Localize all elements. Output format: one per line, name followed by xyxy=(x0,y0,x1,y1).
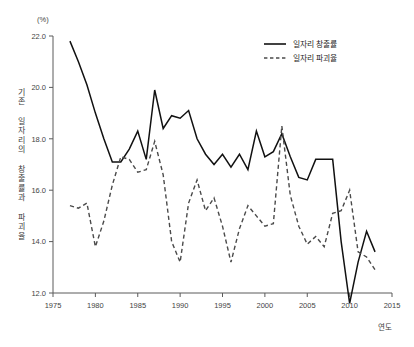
x-axis-ticks: 197519801985199019952000200520102015 xyxy=(45,293,401,310)
legend-label-2: 일자리 파괴율 xyxy=(293,54,337,63)
y-axis-unit-label: (%) xyxy=(37,15,49,24)
y-tick-label: 20.0 xyxy=(31,83,46,92)
y-axis-unit-label-group: (%) xyxy=(37,15,49,24)
y-axis-ticks: 12.014.016.018.020.022.0 xyxy=(31,32,53,298)
y-axis-title-char: 파 xyxy=(18,213,26,222)
y-axis-title-char: 률 xyxy=(18,184,25,193)
chart-container: (%) 기존일자리의창출률과파괴율 12.014.016.018.020.022… xyxy=(0,0,414,347)
x-tick-label: 1980 xyxy=(87,301,104,310)
x-tick-label: 1985 xyxy=(129,301,146,310)
y-axis-title-char: 기 xyxy=(18,88,25,97)
x-tick-label: 2015 xyxy=(384,301,401,310)
x-tick-label: 1995 xyxy=(214,301,231,310)
y-axis-title-char: 자 xyxy=(18,126,26,135)
x-tick-label: 1990 xyxy=(172,301,189,310)
job-creation-destruction-line-chart: (%) 기존일자리의창출률과파괴율 12.014.016.018.020.022… xyxy=(0,0,414,347)
y-tick-label: 14.0 xyxy=(31,237,46,246)
x-tick-label: 1975 xyxy=(45,301,62,310)
series-line-2 xyxy=(70,126,375,270)
x-axis-title: 연도 xyxy=(378,323,392,332)
legend-label-1: 일자리 창출률 xyxy=(293,39,337,49)
x-tick-label: 2000 xyxy=(257,301,274,310)
y-tick-label: 12.0 xyxy=(31,289,46,298)
y-axis-title-char: 일 xyxy=(18,117,25,126)
y-tick-label: 22.0 xyxy=(31,32,46,41)
y-axis-title-char: 율 xyxy=(18,232,25,241)
y-axis-title-char: 창 xyxy=(18,165,26,174)
y-axis-title-char: 리 xyxy=(18,136,25,145)
data-series-group xyxy=(70,41,375,303)
y-tick-label: 18.0 xyxy=(31,135,46,144)
y-axis-title-char: 존 xyxy=(18,97,25,106)
y-axis-title-char: 출 xyxy=(18,173,25,183)
y-tick-label: 16.0 xyxy=(31,186,46,195)
y-axis-title: 기존일자리의창출률과파괴율 xyxy=(18,88,26,241)
chart-legend: 일자리 창출률일자리 파괴율 xyxy=(264,39,337,63)
y-axis-title-char: 과 xyxy=(18,193,26,202)
y-axis-title-char: 의 xyxy=(18,144,25,154)
y-axis-title-char: 괴 xyxy=(18,222,25,231)
x-tick-label: 2005 xyxy=(299,301,316,310)
